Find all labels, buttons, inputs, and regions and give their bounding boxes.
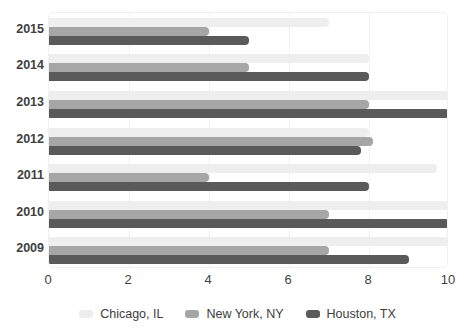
x-axis-tick-label: 10 bbox=[441, 272, 455, 287]
legend-label: New York, NY bbox=[206, 307, 283, 321]
x-axis-tick-label: 4 bbox=[204, 272, 211, 287]
bar[interactable] bbox=[49, 219, 448, 228]
legend-label: Chicago, IL bbox=[100, 307, 163, 321]
chart-title-clipped bbox=[0, 0, 475, 8]
bar-group bbox=[49, 237, 447, 264]
bar[interactable] bbox=[49, 237, 448, 246]
x-axis-tick-label: 2 bbox=[124, 272, 131, 287]
bar[interactable] bbox=[49, 210, 329, 219]
bar[interactable] bbox=[49, 173, 209, 182]
bar[interactable] bbox=[49, 18, 329, 27]
y-axis-tick-label: 2009 bbox=[0, 241, 44, 255]
x-axis-tick-label: 0 bbox=[44, 272, 51, 287]
y-axis-tick-label: 2014 bbox=[0, 58, 44, 72]
bar[interactable] bbox=[49, 27, 209, 36]
legend-item[interactable]: Chicago, IL bbox=[79, 307, 163, 321]
bar[interactable] bbox=[49, 91, 448, 100]
bar[interactable] bbox=[49, 128, 369, 137]
x-axis-labels: 0246810 bbox=[0, 272, 475, 292]
bar-groups bbox=[49, 13, 447, 267]
bar-group bbox=[49, 54, 447, 81]
bar[interactable] bbox=[49, 63, 249, 72]
y-axis-tick-label: 2013 bbox=[0, 95, 44, 109]
bar[interactable] bbox=[49, 54, 369, 63]
bar-group bbox=[49, 164, 447, 191]
legend-item[interactable]: New York, NY bbox=[185, 307, 283, 321]
legend-swatch-icon bbox=[79, 310, 93, 318]
bar[interactable] bbox=[49, 182, 369, 191]
y-axis-tick-label: 2012 bbox=[0, 132, 44, 146]
legend-swatch-icon bbox=[185, 310, 199, 318]
bar[interactable] bbox=[49, 146, 361, 155]
legend-label: Houston, TX bbox=[327, 307, 396, 321]
bar[interactable] bbox=[49, 255, 409, 264]
y-axis-tick-label: 2010 bbox=[0, 205, 44, 219]
y-axis-tick-label: 2015 bbox=[0, 22, 44, 36]
bar[interactable] bbox=[49, 36, 249, 45]
legend-swatch-icon bbox=[306, 310, 320, 318]
bar[interactable] bbox=[49, 164, 437, 173]
bar-group bbox=[49, 201, 447, 228]
bar-group bbox=[49, 91, 447, 118]
bar[interactable] bbox=[49, 100, 369, 109]
bar[interactable] bbox=[49, 109, 448, 118]
bar[interactable] bbox=[49, 137, 373, 146]
bar-group bbox=[49, 128, 447, 155]
y-axis-labels: 2015201420132012201120102009 bbox=[0, 12, 44, 268]
x-axis-tick-label: 6 bbox=[284, 272, 291, 287]
plot-area bbox=[48, 12, 448, 268]
legend-item[interactable]: Houston, TX bbox=[306, 307, 396, 321]
bar-group bbox=[49, 18, 447, 45]
bar-chart: 2015201420132012201120102009 0246810 Chi… bbox=[0, 0, 475, 330]
bar[interactable] bbox=[49, 246, 329, 255]
chart-legend: Chicago, ILNew York, NYHouston, TX bbox=[0, 303, 475, 325]
bar[interactable] bbox=[49, 201, 448, 210]
x-axis-tick-label: 8 bbox=[364, 272, 371, 287]
bar[interactable] bbox=[49, 72, 369, 81]
y-axis-tick-label: 2011 bbox=[0, 168, 44, 182]
